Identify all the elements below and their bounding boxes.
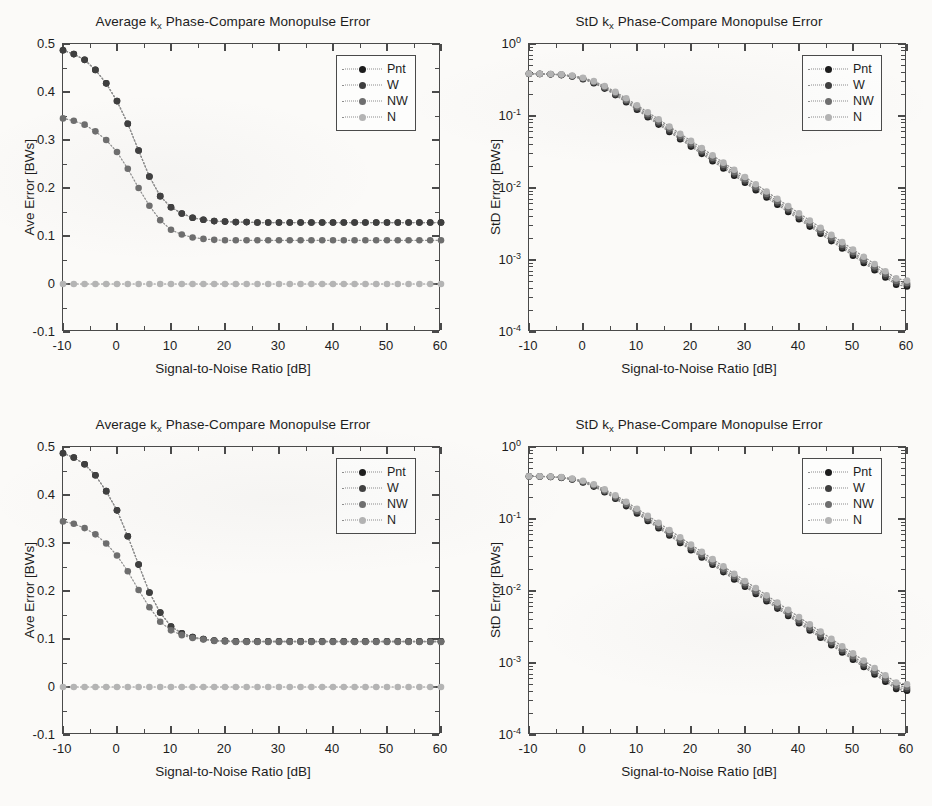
data-point (839, 239, 846, 246)
data-point (796, 210, 803, 217)
legend-marker-icon (808, 79, 848, 91)
data-point (60, 518, 67, 525)
x-tick-label: 50 (845, 338, 859, 353)
data-point (233, 237, 240, 244)
legend-marker-icon (342, 111, 382, 123)
legend-item-n[interactable]: N (808, 109, 874, 125)
data-point (416, 281, 423, 288)
data-point (276, 684, 283, 691)
data-point (265, 237, 272, 244)
plot-legend[interactable]: PntWNWN (336, 55, 416, 131)
data-point (547, 71, 554, 78)
data-point (341, 684, 348, 691)
data-point (893, 679, 900, 686)
data-point (612, 492, 619, 499)
data-point (276, 237, 283, 244)
legend-label: NW (853, 95, 874, 107)
x-tick-label: 60 (433, 338, 447, 353)
legend-item-nw[interactable]: NW (342, 496, 408, 512)
legend-marker-icon (342, 482, 382, 494)
data-point (297, 684, 304, 691)
legend-item-n[interactable]: N (808, 512, 874, 528)
legend-label: N (853, 111, 862, 123)
data-point (558, 71, 565, 78)
data-point (785, 203, 792, 210)
data-point (179, 231, 186, 238)
x-tick-label: 60 (433, 741, 447, 756)
legend-item-w[interactable]: W (342, 77, 408, 93)
legend-item-nw[interactable]: NW (342, 93, 408, 109)
legend-item-pnt[interactable]: Pnt (808, 464, 874, 480)
legend-dot-icon (359, 469, 366, 476)
data-point (157, 193, 164, 200)
data-point (60, 450, 67, 457)
data-point (416, 237, 423, 244)
data-point (135, 185, 142, 192)
y-tick-label: 0.5 (37, 36, 55, 51)
data-point (395, 684, 402, 691)
legend-dot-icon (825, 82, 832, 89)
panel-title-prefix: StD k (576, 14, 610, 29)
x-tick-label: 10 (629, 741, 643, 756)
data-point (297, 219, 304, 226)
panel-title: Average kx Phase-Compare Monopulse Error (0, 14, 466, 31)
data-point (362, 281, 369, 288)
data-point (135, 147, 142, 154)
legend-marker-icon (342, 498, 382, 510)
y-tick-label: -0.1 (33, 727, 55, 742)
data-point (308, 219, 315, 226)
data-point (297, 281, 304, 288)
data-point (287, 219, 294, 226)
data-point (179, 281, 186, 288)
data-point (373, 281, 380, 288)
data-point (362, 237, 369, 244)
legend-item-pnt[interactable]: Pnt (342, 61, 408, 77)
data-point (416, 684, 423, 691)
x-axis-title: Signal-to-Noise Ratio [dB] (0, 361, 466, 376)
legend-item-w[interactable]: W (808, 480, 874, 496)
legend-item-pnt[interactable]: Pnt (808, 61, 874, 77)
data-point (807, 621, 814, 628)
plot-legend[interactable]: PntWNWN (802, 458, 882, 534)
legend-label: N (853, 514, 862, 526)
data-point (384, 639, 391, 646)
data-point (125, 568, 132, 575)
plot-legend[interactable]: PntWNWN (802, 55, 882, 131)
data-point (341, 219, 348, 226)
legend-label: W (387, 79, 399, 91)
legend-dot-icon (359, 82, 366, 89)
data-point (319, 684, 326, 691)
data-point (168, 281, 175, 288)
data-point (438, 639, 445, 646)
plot-legend[interactable]: PntWNWN (336, 458, 416, 534)
data-point (146, 173, 153, 180)
legend-item-w[interactable]: W (342, 480, 408, 496)
data-point (211, 237, 218, 244)
data-point (645, 109, 652, 116)
x-tick-label: 30 (271, 741, 285, 756)
data-point (103, 684, 110, 691)
legend-item-n[interactable]: N (342, 512, 408, 528)
data-point (850, 246, 857, 253)
data-point (817, 628, 824, 635)
data-point (580, 477, 587, 484)
data-point (384, 237, 391, 244)
data-point (81, 121, 88, 128)
legend-dot-icon (359, 485, 366, 492)
legend-item-w[interactable]: W (808, 77, 874, 93)
x-tick-label: 20 (683, 741, 697, 756)
data-point (297, 639, 304, 646)
x-tick-label: 50 (379, 338, 393, 353)
data-point (666, 123, 673, 130)
data-point (427, 219, 434, 226)
data-point (753, 181, 760, 188)
legend-item-pnt[interactable]: Pnt (342, 464, 408, 480)
data-point (92, 531, 99, 538)
legend-item-nw[interactable]: NW (808, 496, 874, 512)
legend-marker-icon (808, 466, 848, 478)
legend-item-nw[interactable]: NW (808, 93, 874, 109)
data-point (114, 507, 121, 514)
legend-item-n[interactable]: N (342, 109, 408, 125)
data-point (308, 237, 315, 244)
data-point (243, 639, 250, 646)
